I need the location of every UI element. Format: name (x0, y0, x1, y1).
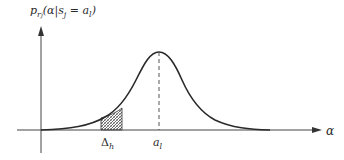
x-axis-label: α (326, 124, 334, 138)
shaded-interval (101, 108, 122, 130)
y-axis-arrow-icon (38, 26, 44, 36)
density-diagram (0, 0, 344, 160)
peak-label: al (153, 136, 162, 151)
density-curve (41, 52, 270, 130)
y-axis-label: prj(α|sj = al) (30, 4, 96, 19)
interval-label: Δh (101, 136, 114, 151)
x-axis-arrow-icon (312, 127, 322, 133)
